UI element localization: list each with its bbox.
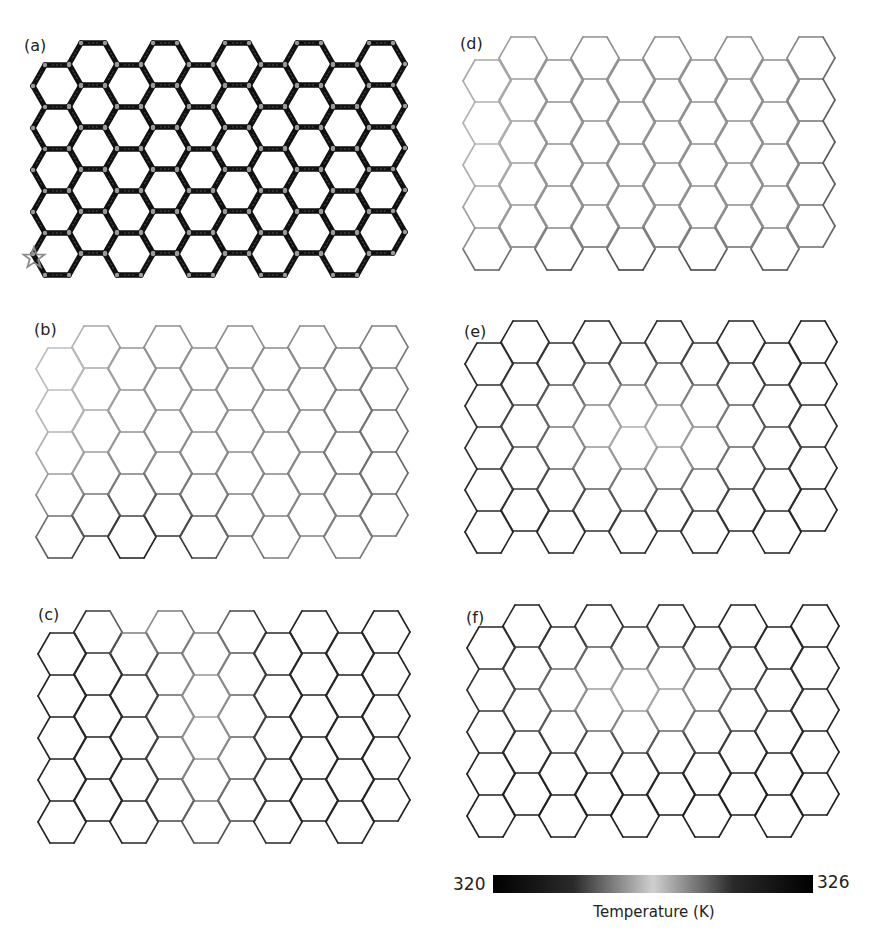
hex-edge	[288, 494, 300, 515]
hex-edge	[607, 205, 619, 226]
vertex-marker	[223, 125, 227, 129]
vertex-marker	[319, 41, 323, 45]
vertex-marker	[175, 41, 179, 45]
hex-edge	[38, 759, 50, 780]
hex-edge	[755, 627, 767, 648]
hex-edge	[182, 801, 194, 822]
hex-edge	[36, 537, 48, 558]
hex-edge	[825, 384, 837, 405]
hex-edge	[645, 426, 657, 447]
panel-b	[36, 326, 408, 558]
hex-edge	[751, 142, 763, 163]
hex-edge	[398, 674, 410, 695]
hex-edge	[573, 426, 585, 447]
hex-edge	[751, 60, 763, 81]
hex-edge	[683, 816, 695, 837]
hex-edge	[679, 121, 691, 142]
hex-edge	[362, 822, 374, 843]
hex-edge	[825, 363, 837, 384]
hex-edge	[715, 144, 727, 165]
hex-edge	[679, 102, 691, 123]
hex-edge	[216, 473, 228, 494]
hex-edge	[396, 452, 408, 473]
hex-edge	[254, 717, 266, 738]
hex-edge	[36, 390, 48, 411]
hex-edge	[288, 326, 300, 347]
hex-edge	[791, 626, 803, 647]
hex-edge	[360, 494, 372, 515]
hex-edge	[679, 165, 691, 186]
hex-edge	[647, 752, 659, 773]
hex-edge	[643, 142, 655, 163]
hex-edge	[681, 406, 693, 427]
hex-edge	[791, 816, 803, 837]
vertex-marker	[331, 147, 335, 151]
hex-edge	[110, 633, 122, 654]
hex-edge	[787, 205, 799, 226]
hex-edge	[607, 228, 619, 249]
hex-edge	[755, 753, 767, 774]
hex-edge	[146, 716, 158, 737]
hex-edge	[501, 489, 513, 510]
hex-edge	[645, 532, 657, 553]
hex-edge	[398, 758, 410, 779]
hex-edge	[751, 81, 763, 102]
vertex-marker	[67, 146, 71, 150]
hex-edge	[182, 759, 194, 780]
hex-edge	[715, 228, 727, 249]
vertex-marker	[259, 273, 263, 277]
vertex-marker	[67, 188, 71, 192]
hex-edge	[751, 249, 763, 270]
hex-edge	[108, 453, 120, 474]
hex-edge	[144, 326, 156, 347]
hex-edge	[755, 732, 767, 753]
hex-edge	[791, 647, 803, 668]
hex-edge	[575, 752, 587, 773]
hex-edge	[288, 515, 300, 536]
hex-edge	[290, 695, 302, 716]
hex-edge	[539, 774, 551, 795]
hex-edge	[609, 511, 621, 532]
hex-edge	[607, 186, 619, 207]
hex-edge	[180, 390, 192, 411]
hex-edge	[535, 102, 547, 123]
vertex-marker	[79, 41, 83, 45]
hex-edge	[681, 532, 693, 553]
hex-edge	[575, 731, 587, 752]
hex-edge	[326, 633, 338, 654]
hex-edge	[360, 473, 372, 494]
hex-edge	[396, 494, 408, 515]
hex-edge	[110, 696, 122, 717]
hex-edge	[503, 752, 515, 773]
hex-edge	[715, 102, 727, 123]
hex-edge	[535, 123, 547, 144]
hex-edge	[683, 690, 695, 711]
hex-edge	[681, 385, 693, 406]
hex-edge	[288, 347, 300, 368]
hex-edge	[252, 390, 264, 411]
hex-edge	[254, 738, 266, 759]
hex-edge	[717, 489, 729, 510]
hex-edge	[465, 343, 477, 364]
hex-edge	[827, 605, 839, 626]
vertex-marker	[187, 189, 191, 193]
hex-edge	[611, 795, 623, 816]
hex-edge	[715, 60, 727, 81]
hex-edge	[72, 410, 84, 431]
hex-edge	[362, 695, 374, 716]
hex-edge	[216, 326, 228, 347]
vertex-marker	[355, 273, 359, 277]
hex-edge	[501, 447, 513, 468]
hex-edge	[182, 822, 194, 843]
hex-edge	[218, 800, 230, 821]
vertex-marker	[331, 273, 335, 277]
vertex-marker	[355, 104, 359, 108]
hex-edge	[787, 37, 799, 58]
vertex-marker	[187, 231, 191, 235]
hex-edge	[463, 144, 475, 165]
hex-edge	[216, 537, 228, 558]
hex-edge	[607, 165, 619, 186]
hex-edge	[607, 226, 619, 247]
vertex-marker	[295, 83, 299, 87]
vertex-marker	[103, 252, 107, 256]
